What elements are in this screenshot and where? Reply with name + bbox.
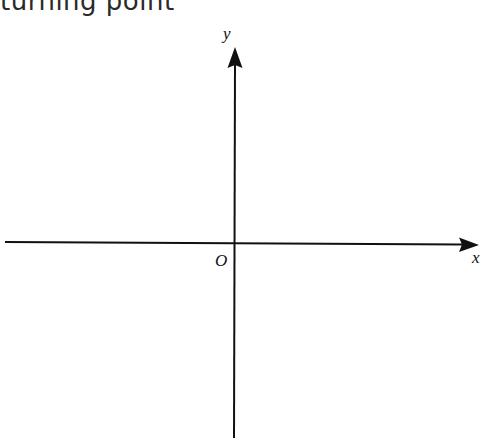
y-axis-arrow-icon xyxy=(228,47,243,68)
x-axis-line xyxy=(5,242,462,245)
y-axis-line xyxy=(234,64,235,438)
coordinate-axes xyxy=(0,0,485,444)
origin-label: O xyxy=(215,252,227,269)
x-axis-label: x xyxy=(472,249,480,266)
y-axis-label: y xyxy=(223,25,231,42)
